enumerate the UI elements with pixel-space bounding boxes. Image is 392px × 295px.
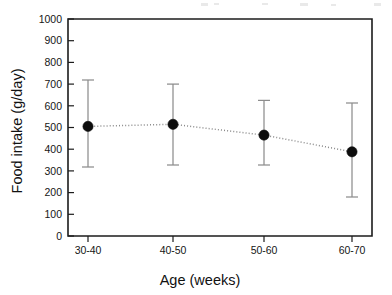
error-bar-group [82,80,358,197]
y-axis-tick-label: 900 [44,34,62,46]
x-axis-tick-label: 50-60 [251,244,278,256]
data-point-marker [259,130,269,140]
y-axis-title: Food intake (g/day) [9,69,25,194]
x-axis-title: Age (weeks) [160,272,241,288]
y-axis-tick: 100 [44,208,74,220]
y-axis-tick-label: 200 [44,186,62,198]
x-axis-tick: 60-70 [339,236,366,256]
y-axis-tick: 200 [44,186,74,198]
x-axis-tick-label: 40-50 [160,244,187,256]
y-axis-tick-label: 800 [44,56,62,68]
x-axis-tick: 30-40 [75,236,102,256]
data-point-marker [83,121,93,131]
x-axis-tick: 50-60 [251,236,278,256]
y-axis-tick: 600 [44,100,74,112]
y-axis-tick-label: 1000 [39,13,63,25]
x-axis-tick-label: 60-70 [339,244,366,256]
plot-frame [68,19,372,236]
y-axis-tick: 400 [44,143,74,155]
data-point-group [83,119,357,157]
trend-line-group [88,124,352,152]
y-axis-tick: 300 [44,165,74,177]
error-bar-line-chart: 1000 900 800 700 600 500 [0,0,392,295]
y-axis-tick-label: 300 [44,165,62,177]
x-axis-tick-label: 30-40 [75,244,102,256]
y-axis-tick-label: 100 [44,208,62,220]
y-axis-tick: 0 [56,230,74,242]
y-axis-tick-label: 400 [44,143,62,155]
y-axis-tick: 700 [44,78,74,90]
data-point-marker [347,147,357,157]
y-axis-tick-label: 700 [44,78,62,90]
data-point-marker [168,119,178,129]
y-axis-tick-label: 500 [44,121,62,133]
chart-figure: 1000 900 800 700 600 500 [0,0,392,295]
y-axis-tick-label: 0 [56,230,62,242]
x-axis-tick-group: 30-40 40-50 50-60 60-70 [75,236,366,256]
y-axis-tick: 500 [44,121,74,133]
y-axis-tick: 900 [44,34,74,46]
y-axis-tick: 800 [44,56,74,68]
y-axis-tick-label: 600 [44,100,62,112]
scan-artifacts [201,3,381,6]
x-axis-tick: 40-50 [160,236,187,256]
